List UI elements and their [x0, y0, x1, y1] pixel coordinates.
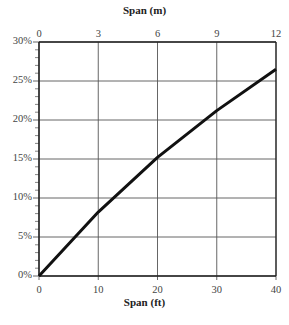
y-tick-label: 10%	[13, 191, 32, 202]
y-tick-label: 5%	[18, 230, 32, 241]
line-chart	[0, 0, 289, 325]
y-tick-label: 25%	[13, 74, 32, 85]
top-x-tick-label: 9	[214, 28, 219, 39]
y-tick-label: 0%	[18, 269, 32, 280]
x-tick-label: 10	[93, 284, 104, 295]
y-tick-label: 20%	[13, 113, 32, 124]
x-tick-label: 0	[36, 284, 41, 295]
y-tick-label: 15%	[13, 152, 32, 163]
top-x-tick-label: 0	[36, 28, 41, 39]
y-tick-label: 30%	[13, 35, 32, 46]
x-tick-label: 40	[271, 284, 282, 295]
x-tick-label: 30	[212, 284, 223, 295]
top-x-tick-label: 3	[96, 28, 101, 39]
top-x-tick-label: 12	[271, 28, 282, 39]
x-tick-label: 20	[152, 284, 163, 295]
top-x-tick-label: 6	[155, 28, 160, 39]
